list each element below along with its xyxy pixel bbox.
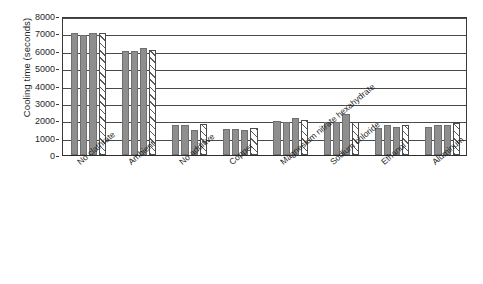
y-axis-tick-label: 1000 bbox=[35, 134, 55, 143]
bar bbox=[89, 33, 96, 155]
plot-area bbox=[62, 17, 467, 156]
bars-layer bbox=[63, 18, 466, 155]
bar bbox=[273, 121, 280, 155]
y-axis-tick-label: 5000 bbox=[35, 65, 55, 74]
bar bbox=[425, 127, 432, 155]
bar bbox=[131, 51, 138, 155]
y-axis-tick-mark bbox=[56, 52, 60, 53]
bar bbox=[71, 33, 78, 155]
y-axis-tick-mark bbox=[56, 69, 60, 70]
bar bbox=[223, 129, 230, 155]
bar-group bbox=[215, 18, 266, 155]
y-axis-tick-mark bbox=[56, 121, 60, 122]
y-axis-tick-mark bbox=[56, 17, 60, 18]
y-axis-tick-label: 7000 bbox=[35, 30, 55, 39]
bar bbox=[375, 128, 382, 155]
y-axis-tick-mark bbox=[56, 104, 60, 105]
y-axis-tick-labels: 800070006000500040003000200010000 bbox=[17, 17, 59, 156]
y-axis-tick-mark bbox=[56, 34, 60, 35]
bar bbox=[80, 35, 87, 155]
bar bbox=[172, 125, 179, 155]
y-axis-tick-label: 4000 bbox=[35, 82, 55, 91]
bar bbox=[140, 48, 147, 155]
y-axis-tick-label: 2000 bbox=[35, 117, 55, 126]
bar-group bbox=[114, 18, 165, 155]
y-axis-tick-mark bbox=[56, 139, 60, 140]
y-axis-tick-label: 0 bbox=[50, 152, 55, 161]
y-axis-tick-mark bbox=[56, 87, 60, 88]
bar-chart-figure: Cooling time (seconds) 80007000600050004… bbox=[0, 0, 483, 284]
y-axis-tick-label: 8000 bbox=[35, 13, 55, 22]
bar-group bbox=[417, 18, 468, 155]
y-axis-tick-mark bbox=[56, 156, 60, 157]
y-axis-tick-label: 6000 bbox=[35, 47, 55, 56]
y-axis-tick-label: 3000 bbox=[35, 99, 55, 108]
bar bbox=[122, 51, 129, 155]
x-axis-tick-labels: No clathrateAmbientNo additiveCopperMagn… bbox=[62, 157, 467, 277]
